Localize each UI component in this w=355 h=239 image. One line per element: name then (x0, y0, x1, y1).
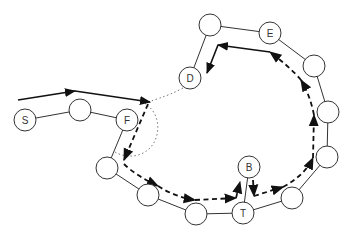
node-label: D (186, 73, 193, 84)
node-E: E (259, 22, 281, 44)
node-n4 (96, 157, 118, 179)
node-label: B (246, 162, 253, 173)
node-n9 (281, 187, 303, 209)
node-n6 (185, 203, 207, 225)
solid-arrow-3 (218, 45, 270, 52)
node-label: F (124, 115, 130, 126)
node-n10 (316, 146, 338, 168)
node-B: B (238, 156, 260, 178)
path-diagram: SFTBED (0, 0, 355, 239)
node-n2 (69, 99, 91, 121)
node-label: T (240, 208, 246, 219)
node-F: F (116, 109, 138, 131)
dashed-path (124, 52, 314, 200)
node-n11 (317, 101, 339, 123)
node-n5 (137, 184, 159, 206)
node-n14 (199, 14, 221, 36)
node-label: S (22, 115, 29, 126)
node-T: T (232, 202, 254, 224)
solid-arrow-4 (207, 45, 218, 73)
node-label: E (267, 28, 274, 39)
nodes: SFTBED (14, 14, 339, 225)
node-D: D (179, 67, 201, 89)
node-n12 (303, 55, 325, 77)
edges (25, 25, 328, 214)
solid-arrow-1 (18, 91, 75, 100)
node-S: S (14, 109, 36, 131)
